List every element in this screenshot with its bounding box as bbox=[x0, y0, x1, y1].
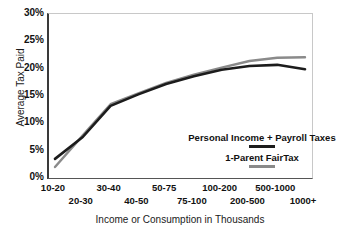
x-axis-tick-labels: 10-2020-3030-4040-5050-7575-100100-20020… bbox=[47, 182, 313, 212]
x-axis-tick-label: 50-75 bbox=[152, 182, 176, 193]
x-axis-tick-label: 500-1000 bbox=[255, 182, 295, 193]
x-axis-tick-label: 100-200 bbox=[202, 182, 237, 193]
x-axis-tick-label: 40-50 bbox=[124, 195, 148, 206]
legend-label: Personal Income + Payroll Taxes bbox=[167, 132, 340, 144]
x-axis-tick-label: 200-500 bbox=[230, 195, 265, 206]
x-axis-tick-label: 10-20 bbox=[41, 182, 65, 193]
y-axis-tick-label: 20% bbox=[14, 63, 44, 73]
legend-swatch bbox=[249, 145, 275, 148]
x-axis-tick-label: 30-40 bbox=[96, 182, 120, 193]
plot-area: Personal Income + Payroll Taxes1-Parent … bbox=[47, 13, 313, 179]
y-axis-tick-label: 25% bbox=[14, 35, 44, 45]
legend-entry: 1-Parent FairTax bbox=[167, 152, 340, 168]
y-axis-tick-label: 10% bbox=[14, 117, 44, 127]
y-axis-tick-labels: 30%25%20%15%10%5%0% bbox=[10, 0, 44, 237]
y-axis-tick-label: 0% bbox=[14, 172, 44, 182]
legend-label: 1-Parent FairTax bbox=[167, 152, 340, 164]
y-axis-tick-label: 15% bbox=[14, 90, 44, 100]
x-axis-tick-label: 20-30 bbox=[69, 195, 93, 206]
y-axis-tick-label: 5% bbox=[14, 145, 44, 155]
x-axis-title: Income or Consumption in Thousands bbox=[47, 214, 313, 225]
x-axis-tick-label: 1000+ bbox=[290, 195, 317, 206]
x-axis-tick-label: 75-100 bbox=[177, 195, 207, 206]
legend-entry: Personal Income + Payroll Taxes bbox=[167, 132, 340, 148]
chart-legend: Personal Income + Payroll Taxes1-Parent … bbox=[167, 132, 340, 172]
y-axis-tick-label: 30% bbox=[14, 8, 44, 18]
legend-swatch bbox=[249, 165, 275, 168]
